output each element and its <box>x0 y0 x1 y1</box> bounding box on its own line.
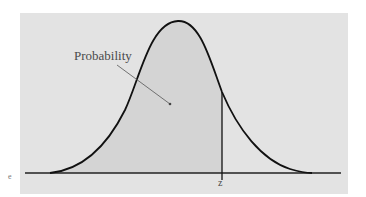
normal-curve-plot <box>0 0 366 197</box>
z-label: z <box>218 177 222 188</box>
margin-mark: e <box>8 172 12 181</box>
probability-label: Probability <box>74 48 132 64</box>
probability-pointer-dot <box>169 103 172 106</box>
shaded-probability-area <box>50 21 222 173</box>
